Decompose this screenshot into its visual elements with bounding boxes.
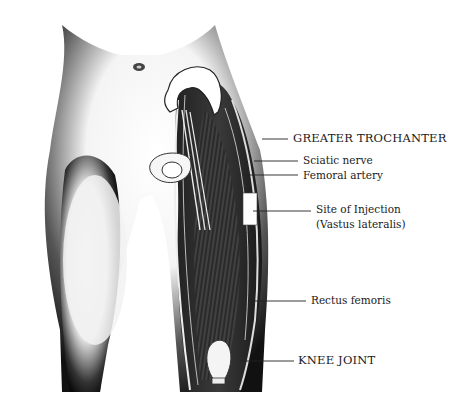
label-femoral-artery: Femoral artery: [303, 170, 383, 181]
label-knee-joint: KNEE JOINT: [298, 355, 375, 367]
label-sciatic-nerve: Sciatic nerve: [303, 155, 373, 166]
injection-site-marker: [243, 193, 257, 225]
label-rectus-femoris: Rectus femoris: [311, 295, 391, 306]
label-vastus-lateralis: (Vastus lateralis): [316, 219, 406, 230]
label-greater-trochanter: GREATER TROCHANTER: [293, 133, 447, 145]
thigh-anatomy-diagram: GREATER TROCHANTER Sciatic nerve Femoral…: [0, 0, 455, 395]
thigh-illustration: [0, 0, 455, 395]
patella: [207, 340, 231, 380]
label-site-of-injection: Site of Injection: [316, 204, 401, 215]
